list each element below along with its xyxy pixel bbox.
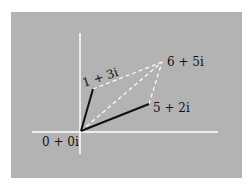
- label-origin: 0 + 0i: [42, 135, 79, 149]
- vector-z2: [81, 104, 149, 131]
- complex-addition-diagram: 0 + 0i 1 + 3i 5 + 2i 6 + 5i: [0, 0, 250, 187]
- label-z2: 5 + 2i: [153, 101, 190, 115]
- label-sum: 6 + 5i: [167, 55, 204, 69]
- vector-z1: [81, 89, 93, 131]
- dashed-z2-to-sum: [149, 62, 162, 104]
